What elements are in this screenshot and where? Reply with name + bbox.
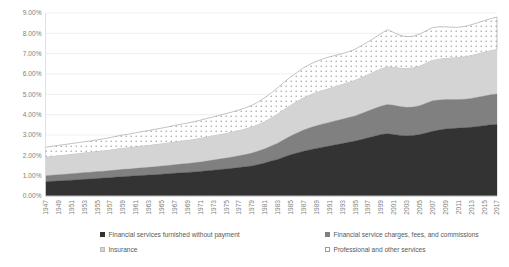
x-tick-label: 1989 bbox=[313, 200, 320, 215]
legend-item[interactable]: Professional and other services bbox=[325, 243, 509, 256]
x-tick-label: 1971 bbox=[197, 200, 204, 215]
x-tick-label: 1991 bbox=[326, 200, 333, 215]
y-tick-label: 6.00% bbox=[23, 70, 42, 77]
legend-label: Insurance bbox=[109, 246, 138, 253]
x-tick-label: 1953 bbox=[81, 200, 88, 215]
x-tick-label: 1981 bbox=[261, 200, 268, 215]
x-tick-label: 1995 bbox=[352, 200, 359, 215]
x-tick-label: 2009 bbox=[442, 200, 449, 215]
y-tick-label: 5.00% bbox=[23, 91, 42, 98]
chart-svg: 9.00%8.00%7.00%6.00%5.00%4.00%3.00%2.00%… bbox=[0, 0, 509, 230]
area-series-group bbox=[46, 17, 498, 196]
x-tick-label: 1951 bbox=[68, 200, 75, 215]
y-tick-label: 4.00% bbox=[23, 111, 42, 118]
x-tick-label: 1979 bbox=[248, 200, 255, 215]
legend-label: Financial services furnished without pay… bbox=[109, 231, 240, 238]
x-tick-label: 2005 bbox=[416, 200, 423, 215]
x-tick-label: 2015 bbox=[481, 200, 488, 215]
legend-item[interactable]: Financial service charges, fees, and com… bbox=[325, 228, 509, 241]
x-tick-label: 1969 bbox=[184, 200, 191, 215]
y-axis-ticks: 9.00%8.00%7.00%6.00%5.00%4.00%3.00%2.00%… bbox=[23, 9, 42, 199]
x-tick-label: 1987 bbox=[300, 200, 307, 215]
x-tick-label: 1959 bbox=[119, 200, 126, 215]
y-tick-label: 7.00% bbox=[23, 50, 42, 57]
x-tick-label: 2013 bbox=[468, 200, 475, 215]
stacked-area-chart: 9.00%8.00%7.00%6.00%5.00%4.00%3.00%2.00%… bbox=[0, 0, 509, 267]
x-tick-label: 1961 bbox=[132, 200, 139, 215]
legend-item[interactable]: Insurance bbox=[100, 243, 325, 256]
y-tick-label: 0.00% bbox=[23, 192, 42, 199]
x-tick-label: 1977 bbox=[235, 200, 242, 215]
y-tick-label: 9.00% bbox=[23, 9, 42, 16]
x-tick-label: 1999 bbox=[377, 200, 384, 215]
x-tick-label: 1955 bbox=[94, 200, 101, 215]
x-tick-label: 1947 bbox=[42, 200, 49, 215]
x-tick-label: 1973 bbox=[210, 200, 217, 215]
legend-item[interactable]: Financial services furnished without pay… bbox=[100, 228, 325, 241]
plot-area: 9.00%8.00%7.00%6.00%5.00%4.00%3.00%2.00%… bbox=[0, 0, 509, 230]
y-tick-label: 1.00% bbox=[23, 172, 42, 179]
x-tick-label: 1963 bbox=[145, 200, 152, 215]
legend-swatch-icon bbox=[100, 232, 105, 237]
legend-swatch-icon bbox=[325, 247, 330, 252]
x-tick-label: 1949 bbox=[55, 200, 62, 215]
x-tick-label: 1965 bbox=[158, 200, 165, 215]
chart-legend: Financial services furnished without pay… bbox=[0, 228, 509, 267]
x-tick-label: 2007 bbox=[429, 200, 436, 215]
x-tick-label: 1997 bbox=[364, 200, 371, 215]
x-tick-label: 2011 bbox=[455, 200, 462, 215]
x-tick-label: 1983 bbox=[274, 200, 281, 215]
x-tick-label: 1985 bbox=[287, 200, 294, 215]
y-tick-label: 8.00% bbox=[23, 30, 42, 37]
legend-swatch-icon bbox=[325, 232, 330, 237]
y-tick-label: 3.00% bbox=[23, 131, 42, 138]
x-tick-label: 1975 bbox=[223, 200, 230, 215]
legend-swatch-icon bbox=[100, 247, 105, 252]
legend-label: Financial service charges, fees, and com… bbox=[334, 231, 479, 238]
x-tick-label: 1967 bbox=[171, 200, 178, 215]
y-tick-label: 2.00% bbox=[23, 152, 42, 159]
legend-label: Professional and other services bbox=[334, 246, 426, 253]
x-tick-label: 2017 bbox=[493, 200, 500, 215]
x-axis-ticks: 1947194919511953195519571959196119631965… bbox=[42, 200, 501, 215]
x-tick-label: 1957 bbox=[106, 200, 113, 215]
x-tick-label: 1993 bbox=[339, 200, 346, 215]
x-tick-label: 2001 bbox=[390, 200, 397, 215]
x-tick-label: 2003 bbox=[403, 200, 410, 215]
